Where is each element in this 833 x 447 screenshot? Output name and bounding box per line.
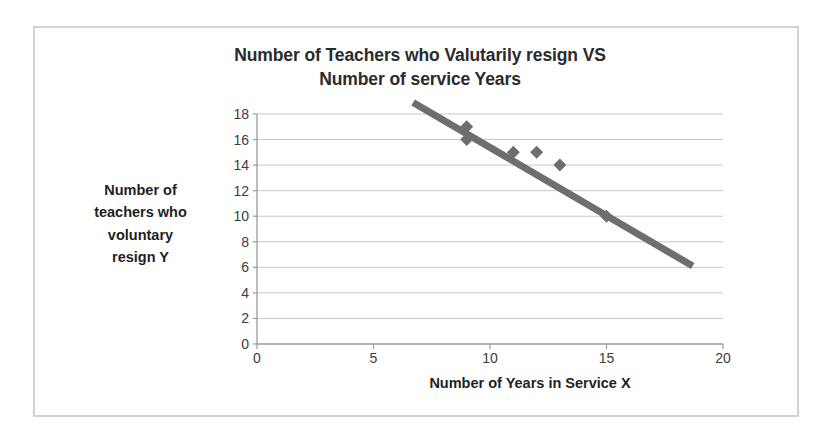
plot-area <box>257 114 723 344</box>
chart-title-line-2: Number of service Years <box>155 68 685 92</box>
y-tick-label: 16 <box>209 132 249 148</box>
y-tick-label: 18 <box>209 106 249 122</box>
x-tick-label: 5 <box>354 350 394 366</box>
x-axis-tick-labels: 05101520 <box>257 350 723 372</box>
x-tick-label: 20 <box>703 350 743 366</box>
y-axis-title-line-2: teachers who <box>73 201 208 223</box>
y-axis-title-line-4: resign Y <box>73 246 208 268</box>
x-tick-label: 15 <box>587 350 627 366</box>
x-tick-label: 0 <box>237 350 277 366</box>
data-point-marker <box>530 146 543 159</box>
plot-svg <box>257 114 723 344</box>
chart-frame: Number of Teachers who Valutarily resign… <box>33 26 799 417</box>
y-tick-label: 10 <box>209 208 249 224</box>
y-axis-title: Number of teachers who voluntary resign … <box>73 179 208 269</box>
data-point-marker <box>553 159 566 172</box>
y-tick-label: 14 <box>209 157 249 173</box>
chart-title: Number of Teachers who Valutarily resign… <box>155 44 685 91</box>
y-axis-tick-labels: 024681012141618 <box>201 114 249 344</box>
y-tick-label: 8 <box>209 234 249 250</box>
y-tick-label: 4 <box>209 285 249 301</box>
y-axis-title-line-1: Number of <box>73 179 208 201</box>
y-tick-label: 12 <box>209 183 249 199</box>
y-tick-label: 2 <box>209 310 249 326</box>
y-tick-label: 6 <box>209 259 249 275</box>
y-axis-title-line-3: voluntary <box>73 224 208 246</box>
x-axis-title: Number of Years in Service X <box>250 375 810 391</box>
chart-title-line-1: Number of Teachers who Valutarily resign… <box>155 44 685 68</box>
x-tick-label: 10 <box>470 350 510 366</box>
